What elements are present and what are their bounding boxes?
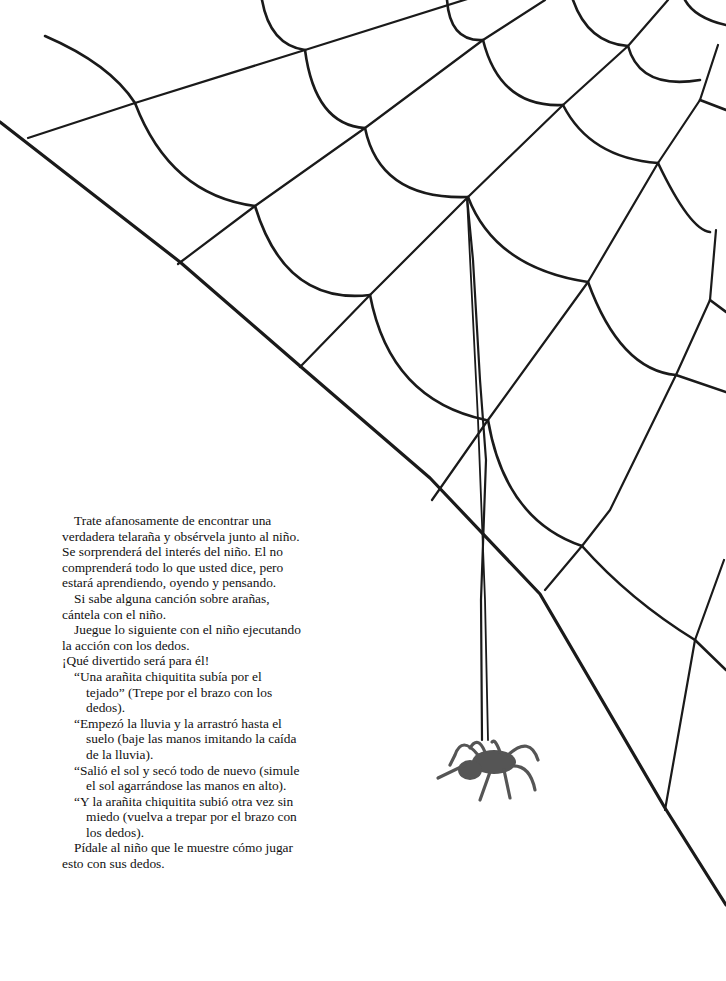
web-spiral xyxy=(628,46,700,82)
web-spiral xyxy=(573,0,628,46)
web-spiral xyxy=(262,0,305,50)
web-spiral xyxy=(700,100,726,110)
web-spiral xyxy=(483,40,563,105)
web-spiral xyxy=(135,103,255,206)
web-spiral xyxy=(658,163,710,232)
web-radial-3 xyxy=(300,0,668,367)
web-spiral xyxy=(447,0,483,40)
web-radial-4 xyxy=(432,45,718,500)
web-radial-5 xyxy=(545,230,716,590)
web-radial-1 xyxy=(28,0,480,138)
verse-1: “Una arañita chiquitita subía por el tej… xyxy=(62,669,302,716)
web-spiral xyxy=(468,197,588,282)
web-spiral xyxy=(255,206,370,296)
paragraph-closing: Pídale al niño que le muestre cómo jugar… xyxy=(62,840,302,871)
paragraph-game: Juegue lo siguiente con el niño ejecutan… xyxy=(62,622,302,653)
paragraph-song: Si sabe alguna canción sobre arañas, cán… xyxy=(62,591,302,622)
web-spiral xyxy=(685,0,726,25)
web-spiral xyxy=(488,420,582,546)
web-radial-7 xyxy=(467,197,486,740)
web-radial-6 xyxy=(665,560,724,810)
web-spiral xyxy=(45,36,135,103)
verse-3: “Salió el sol y secó todo de nuevo (simu… xyxy=(62,763,302,794)
web-spiral xyxy=(582,546,695,640)
web-spiral xyxy=(676,375,726,392)
verse-2: “Empezó la lluvia y la arrastró hasta el… xyxy=(62,716,302,763)
web-spiral xyxy=(365,128,468,197)
verse-4: “Y la arañita chiquitita subió otra vez … xyxy=(62,794,302,841)
web-radial-2 xyxy=(178,0,545,264)
web-spiral xyxy=(588,282,676,375)
paragraph-fun: ¡Qué divertido será para él! xyxy=(62,653,302,669)
web-spiral xyxy=(710,300,726,312)
spider-icon xyxy=(438,741,538,800)
web-spiral xyxy=(695,640,726,670)
web-spiral xyxy=(563,105,658,163)
paragraph-intro: Trate afanosamente de encontrar una verd… xyxy=(62,513,302,591)
instructions-text: Trate afanosamente de encontrar una verd… xyxy=(62,513,302,872)
web-spiral xyxy=(370,295,486,420)
web-spiral xyxy=(305,50,365,128)
